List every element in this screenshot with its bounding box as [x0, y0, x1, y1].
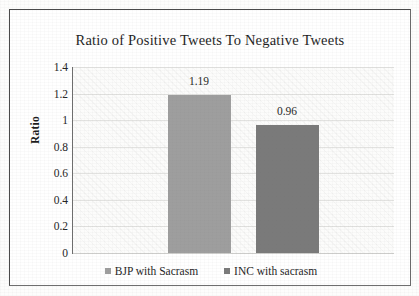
legend-item-label: BJP with Sacrasm [115, 265, 198, 277]
gridline [73, 200, 394, 201]
legend-item[interactable]: INC with sacrasm [224, 265, 317, 277]
axis-baseline [73, 253, 394, 254]
gridline [73, 67, 394, 68]
y-tick-label: 1.4 [38, 61, 68, 73]
y-axis-tick-labels: 00.20.40.60.811.21.4 [34, 67, 68, 253]
y-tick-label: 0.8 [38, 141, 68, 153]
chart-title: Ratio of Positive Tweets To Negative Twe… [10, 32, 410, 49]
y-tick-label: 0.6 [38, 167, 68, 179]
y-tick-label: 1.2 [38, 88, 68, 100]
bar[interactable] [256, 125, 319, 253]
legend-item[interactable]: BJP with Sacrasm [105, 265, 198, 277]
gridline [73, 226, 394, 227]
legend-item-label: INC with sacrasm [234, 265, 317, 277]
y-tick-label: 0 [38, 247, 68, 259]
bar-value-label: 0.96 [247, 105, 327, 117]
square-marker-icon [105, 268, 111, 274]
chart-frame: Ratio of Positive Tweets To Negative Twe… [9, 9, 411, 286]
gridline [73, 94, 394, 95]
bar[interactable] [168, 95, 231, 253]
bar-value-label: 1.19 [159, 75, 239, 87]
scanned-figure-page: Ratio of Positive Tweets To Negative Twe… [0, 0, 419, 296]
square-marker-icon [224, 268, 230, 274]
chart-legend: BJP with SacrasmINC with sacrasm [10, 265, 412, 277]
gridline [73, 147, 394, 148]
gridline [73, 120, 394, 121]
y-tick-label: 0.2 [38, 220, 68, 232]
gridline [73, 173, 394, 174]
plot-background [73, 67, 394, 253]
plot-area: 1.190.96 [73, 67, 394, 253]
y-tick-label: 0.4 [38, 194, 68, 206]
y-tick-label: 1 [38, 114, 68, 126]
